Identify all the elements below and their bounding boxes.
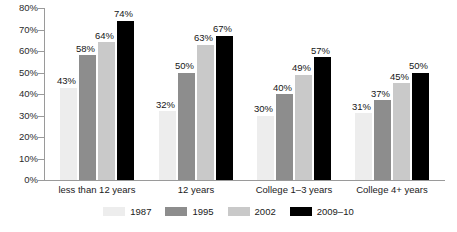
bar (98, 42, 115, 180)
bar-value-label: 50% (409, 61, 428, 71)
legend-label: 2009–10 (317, 207, 354, 217)
bar (295, 75, 312, 180)
y-axis-tick-label: 70% (2, 25, 38, 35)
bar (159, 111, 176, 180)
y-axis-tick-label: 0% (2, 175, 38, 185)
bar (197, 45, 214, 180)
y-axis-tick (38, 180, 44, 181)
y-axis-tick-label: 40% (2, 89, 38, 99)
bar-value-label: 58% (76, 44, 95, 54)
bar (393, 83, 410, 180)
bar-value-label: 49% (292, 63, 311, 73)
bar (276, 94, 293, 180)
bar-value-label: 30% (254, 104, 273, 114)
bar (412, 73, 429, 181)
bar (60, 88, 77, 180)
bar (257, 116, 274, 181)
x-axis-category-label: College 4+ years (332, 185, 452, 195)
bar-value-label: 40% (273, 83, 292, 93)
bar-value-label: 31% (352, 102, 371, 112)
bar-group: 32%50%63%67% (159, 8, 233, 180)
y-axis-tick-label: 80% (2, 3, 38, 13)
bar (216, 36, 233, 180)
legend-label: 2002 (255, 207, 276, 217)
bar-value-label: 37% (371, 89, 390, 99)
y-axis-tick (38, 51, 44, 52)
legend-item[interactable]: 2002 (228, 207, 276, 217)
y-axis-tick (38, 137, 44, 138)
y-axis-tick (38, 30, 44, 31)
bar-value-label: 64% (95, 31, 114, 41)
bar-value-label: 57% (311, 46, 330, 56)
y-axis-tick-label: 20% (2, 132, 38, 142)
plot-area: 43%58%64%74%32%50%63%67%30%40%49%57%31%3… (44, 8, 445, 180)
y-axis-tick-label: 10% (2, 154, 38, 164)
y-axis-tick (38, 73, 44, 74)
y-axis-tick-label: 30% (2, 111, 38, 121)
bar-value-label: 43% (57, 76, 76, 86)
bar-group: 43%58%64%74% (60, 8, 134, 180)
legend-swatch-icon (103, 207, 125, 216)
legend-item[interactable]: 2009–10 (290, 207, 354, 217)
bar-value-label: 67% (213, 24, 232, 34)
bar (374, 100, 391, 180)
legend-item[interactable]: 1987 (103, 207, 151, 217)
y-axis-tick-label: 60% (2, 46, 38, 56)
y-axis: 0%10%20%30%40%50%60%70%80% (0, 8, 38, 180)
chart-legend: 1987199520022009–10 (0, 207, 457, 217)
bar (314, 57, 331, 180)
bar (355, 113, 372, 180)
x-axis-line (44, 180, 445, 181)
bar (79, 55, 96, 180)
bar-chart: 0%10%20%30%40%50%60%70%80% 43%58%64%74%3… (0, 0, 457, 232)
bar-value-label: 74% (114, 9, 133, 19)
y-axis-tick (38, 159, 44, 160)
bar (117, 21, 134, 180)
y-axis-tick (38, 116, 44, 117)
bar-group: 31%37%45%50% (355, 8, 429, 180)
bar-value-label: 63% (194, 33, 213, 43)
legend-label: 1987 (130, 207, 151, 217)
bar-value-label: 45% (390, 72, 409, 82)
y-axis-tick (38, 94, 44, 95)
y-axis-line (44, 8, 45, 180)
bar-value-label: 32% (156, 100, 175, 110)
legend-swatch-icon (228, 207, 250, 216)
bar-group: 30%40%49%57% (257, 8, 331, 180)
legend-item[interactable]: 1995 (165, 207, 213, 217)
legend-swatch-icon (165, 207, 187, 216)
y-axis-tick (38, 8, 44, 9)
y-axis-tick-label: 50% (2, 68, 38, 78)
legend-swatch-icon (290, 207, 312, 216)
bar-value-label: 50% (175, 61, 194, 71)
bar (178, 73, 195, 181)
legend-label: 1995 (192, 207, 213, 217)
